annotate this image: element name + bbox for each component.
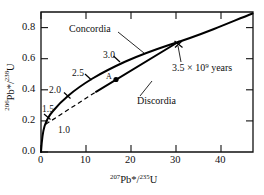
x-axis-title-element: U: [150, 174, 158, 185]
y-tick-label-1: 0.2: [22, 115, 35, 126]
discordia-label: Discordia: [137, 96, 176, 106]
age-tick-2-5: [85, 74, 92, 80]
upper-intercept-text: 3.5 × 10⁹ years: [172, 62, 232, 73]
y-tick-label-2: 0.4: [22, 84, 35, 95]
y-axis-title-base: Pb*/: [5, 81, 16, 100]
x-tick-label-4: 40: [215, 155, 226, 166]
concordia-diagram-figure: 0.0 0.2 0.4 0.6 0.8 0 10 20 30 40 207Pb*…: [0, 0, 264, 195]
y-axis-title-element: U: [5, 63, 16, 71]
x-axis-title-sup-left: 207: [110, 173, 120, 180]
age-label-3-0: 3.0: [103, 51, 115, 61]
y-axis-title-wrapper: 206Pb*/238U: [2, 52, 18, 122]
x-tick-label-0: 0: [38, 155, 43, 166]
age-label-1-5: 1.5: [42, 105, 54, 115]
concordia-curve: [41, 14, 253, 153]
concordia-leader-line: [118, 32, 144, 53]
upper-intercept-label: 3.5 × 10⁹ years: [172, 63, 232, 73]
y-axis-title-sup-left: 206: [3, 100, 10, 110]
x-axis-title-base: Pb*/: [120, 174, 139, 185]
discordia-leader-line: [140, 81, 152, 96]
y-tick-label-3: 0.6: [22, 53, 35, 64]
y-axis-title-sup-right: 238: [3, 71, 10, 81]
upper-age-leader-line: [178, 46, 181, 62]
x-axis-title-sup-right: 235: [139, 173, 149, 180]
y-tick-label-0: 0.0: [22, 146, 35, 157]
y-axis-title: 206Pb*/238U: [5, 63, 16, 110]
age-label-2-0: 2.0: [49, 86, 61, 96]
y-tick-label-4: 0.8: [22, 22, 35, 33]
x-tick-label-2: 20: [125, 155, 136, 166]
age-label-1-0: 1.0: [58, 126, 70, 136]
x-tick-label-3: 30: [170, 155, 181, 166]
point-a-label: A: [106, 73, 112, 81]
x-axis-title: 207Pb*/235U: [110, 175, 157, 186]
age-label-2-5: 2.5: [72, 69, 84, 79]
plot-canvas: [0, 0, 264, 195]
concordia-label: Concordia: [69, 24, 111, 34]
y-axis-ticks: [41, 28, 253, 152]
point-a-marker: [113, 77, 118, 82]
x-tick-label-1: 10: [80, 155, 91, 166]
